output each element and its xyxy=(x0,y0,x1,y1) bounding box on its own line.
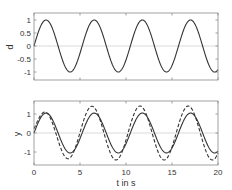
y-tick-label: 0.5 xyxy=(20,29,32,38)
top-x-ticks xyxy=(34,13,218,80)
figure: 10.50-0.5-1 d 10-1 05101520 y t in s xyxy=(0,0,232,190)
top-ylabel: d xyxy=(5,44,15,49)
top-axes-frame xyxy=(34,13,218,80)
bottom-axes: 10-1 05101520 y t in s xyxy=(12,101,223,188)
y-tick-label: -1 xyxy=(24,68,32,77)
bottom-ylabel: y xyxy=(12,131,22,136)
y-tick-label: 1 xyxy=(27,110,32,119)
y-tick-label: 0 xyxy=(27,42,32,51)
bottom-y-ticks: 10-1 xyxy=(24,110,218,157)
y-tick-label: 1 xyxy=(27,16,32,25)
x-tick-label: 15 xyxy=(168,168,177,177)
top-axes: 10.50-0.5-1 d xyxy=(5,13,218,80)
bottom-xlabel: t in s xyxy=(116,178,136,188)
x-tick-label: 5 xyxy=(78,168,83,177)
y-tick-label: -0.5 xyxy=(17,55,31,64)
y-tick-label: -1 xyxy=(24,148,32,157)
x-tick-label: 0 xyxy=(32,168,37,177)
top-y-ticks: 10.50-0.5-1 xyxy=(17,16,218,77)
x-tick-label: 20 xyxy=(214,168,223,177)
y-tick-label: 0 xyxy=(27,129,32,138)
x-tick-label: 10 xyxy=(122,168,131,177)
